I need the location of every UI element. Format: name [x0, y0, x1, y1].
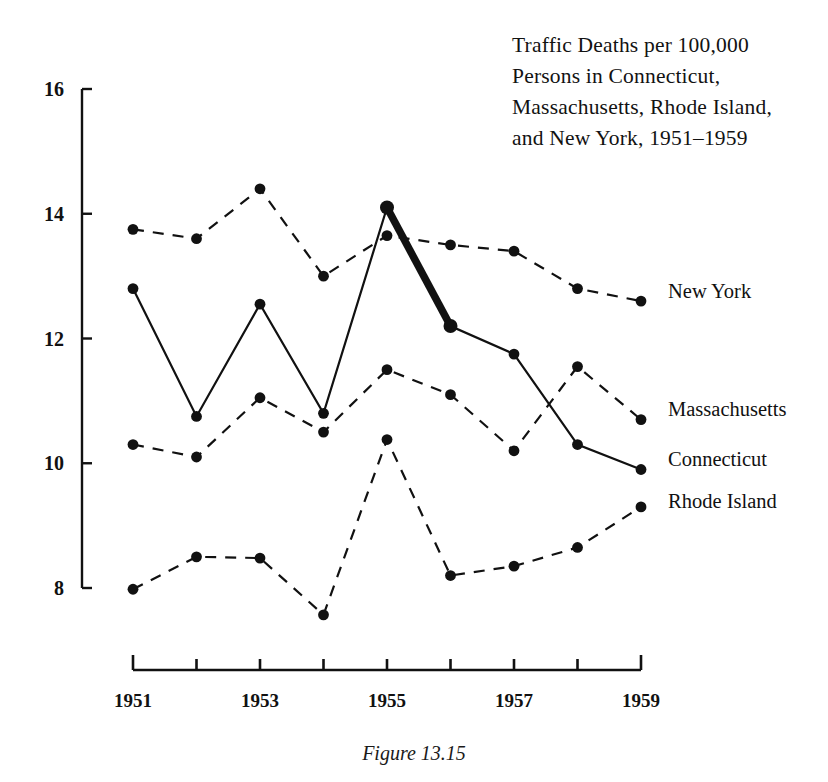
- data-point-massachusetts-1951: [128, 439, 139, 450]
- data-point-rhode-island-1952: [191, 551, 202, 562]
- x-tick-label-1955: 1955: [347, 690, 427, 712]
- data-point-massachusetts-1955: [382, 364, 393, 375]
- y-tick-label-16: 16: [20, 78, 64, 101]
- data-point-new-york-1959: [636, 296, 647, 307]
- x-tick-label-1959: 1959: [601, 690, 681, 712]
- data-point-connecticut-1954: [318, 408, 329, 419]
- figure-root: Traffic Deaths per 100,000 Persons in Co…: [0, 0, 828, 782]
- series-layer: [128, 183, 647, 620]
- data-point-new-york-1958: [572, 283, 583, 294]
- data-point-rhode-island-1959: [636, 502, 647, 513]
- series-label-new-york: New York: [668, 280, 751, 303]
- data-point-connecticut-1952: [191, 411, 202, 422]
- data-point-connecticut-1958: [572, 439, 583, 450]
- series-line-connecticut: [133, 208, 641, 470]
- y-tick-label-10: 10: [20, 452, 64, 475]
- data-point-new-york-1952: [191, 233, 202, 244]
- x-tick-label-1957: 1957: [474, 690, 554, 712]
- data-point-massachusetts-1957: [509, 445, 520, 456]
- data-point-massachusetts-1954: [318, 427, 329, 438]
- series-label-rhode-island: Rhode Island: [668, 490, 777, 513]
- data-point-connecticut-1959: [636, 464, 647, 475]
- data-point-massachusetts-1953: [255, 392, 266, 403]
- data-point-massachusetts-1958: [572, 361, 583, 372]
- series-label-connecticut: Connecticut: [668, 448, 767, 471]
- data-point-massachusetts-1959: [636, 414, 647, 425]
- figure-caption: Figure 13.15: [0, 742, 828, 765]
- data-point-rhode-island-1953: [255, 553, 266, 564]
- data-point-new-york-1957: [509, 246, 520, 257]
- x-tick-label-1953: 1953: [220, 690, 300, 712]
- data-point-rhode-island-1951: [128, 584, 139, 595]
- data-point-new-york-1951: [128, 224, 139, 235]
- data-point-rhode-island-1956: [445, 570, 456, 581]
- data-point-rhode-island-1957: [509, 561, 520, 572]
- data-point-rhode-island-1958: [572, 542, 583, 553]
- x-tick-label-1951: 1951: [93, 690, 173, 712]
- data-point-rhode-island-1954: [318, 609, 329, 620]
- chart-plot-area: [0, 0, 828, 782]
- y-tick-label-8: 8: [20, 577, 64, 600]
- data-point-connecticut-1957: [509, 349, 520, 360]
- series-line-rhode-island: [133, 440, 641, 615]
- data-point-new-york-1955: [382, 230, 393, 241]
- data-point-connecticut-1953: [255, 299, 266, 310]
- series-highlight-segment-connecticut: [387, 208, 451, 327]
- data-point-new-york-1954: [318, 271, 329, 282]
- data-point-massachusetts-1952: [191, 452, 202, 463]
- data-point-connecticut-1956: [444, 319, 458, 333]
- data-point-new-york-1956: [445, 240, 456, 251]
- data-point-connecticut-1955: [380, 201, 394, 215]
- axis-layer: [82, 89, 641, 670]
- data-point-connecticut-1951: [128, 283, 139, 294]
- y-tick-label-14: 14: [20, 203, 64, 226]
- data-point-new-york-1953: [255, 183, 266, 194]
- series-label-massachusetts: Massachusetts: [668, 398, 786, 421]
- y-tick-label-12: 12: [20, 328, 64, 351]
- data-point-massachusetts-1956: [445, 389, 456, 400]
- data-point-rhode-island-1955: [382, 434, 393, 445]
